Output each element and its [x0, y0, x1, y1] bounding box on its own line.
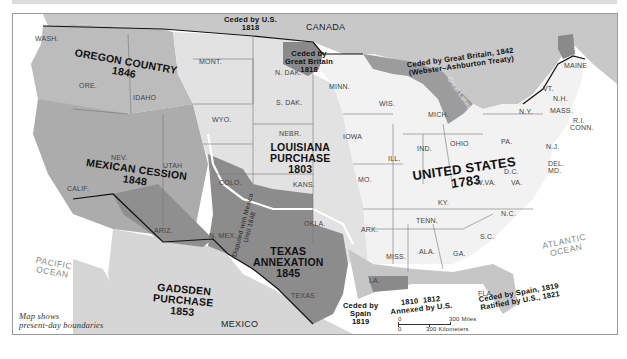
state-label-ind: IND. [417, 145, 432, 152]
scale-bar: 0 300 Miles 0 300 Kilometers [398, 316, 478, 334]
state-label-ohio: OHIO [450, 140, 469, 147]
state-label-mont: MONT. [199, 58, 222, 65]
state-label-ala: ALA. [419, 248, 435, 255]
label-louisiana-purchase: LOUISIANA PURCHASE 1803 [270, 142, 331, 175]
state-label-iowa: IOWA [343, 133, 362, 140]
state-label-ariz: ARIZ. [154, 227, 173, 234]
state-label-ark: ARK. [361, 226, 378, 233]
state-label-colo: COLO. [219, 179, 242, 186]
state-label-ore: ORE. [79, 82, 97, 89]
state-label-okla: OKLA. [304, 220, 326, 227]
state-label-tenn: TENN. [416, 217, 438, 224]
map-caption: Map shows present-day boundaries [19, 312, 104, 330]
state-label-idaho: IDAHO [133, 94, 156, 101]
state-label-va: VA. [511, 179, 522, 186]
state-label-nmex: N. MEX. [209, 232, 236, 239]
state-label-la: LA. [369, 277, 380, 284]
state-label-pa: PA. [501, 138, 512, 145]
state-label-conn: CONN. [570, 124, 594, 131]
state-label-ky: KY. [438, 199, 449, 206]
top-strip [12, 0, 617, 4]
state-label-wash: WASH. [35, 35, 59, 42]
state-label-miss: MISS. [386, 253, 406, 260]
state-label-wva: W.VA. [476, 179, 496, 186]
label-mexico: MEXICO [221, 319, 258, 329]
state-label-nev: NEV. [111, 154, 128, 161]
state-label-del: DEL. [548, 160, 564, 167]
label-gadsden-purchase: GADSDEN PURCHASE 1853 [152, 281, 215, 319]
state-label-calif: CALIF. [67, 185, 89, 192]
scale-tick-miles [450, 322, 451, 325]
label-canada: CANADA [306, 22, 345, 32]
note-ceded-us-1818: Ceded by U.S. 1818 [224, 16, 277, 32]
state-label-kans: KANS. [293, 181, 315, 188]
state-label-md: MD. [548, 167, 561, 174]
map-frame: CANADA MEXICO PACIFIC OCEAN ATLANTIC OCE… [12, 13, 618, 335]
state-label-ri: R.I. [573, 117, 585, 124]
state-label-fla: FLA. [478, 290, 494, 297]
state-label-sdak: S. DAK. [276, 99, 302, 106]
state-label-ndak: N. DAK. [275, 69, 302, 76]
state-label-wyo: WYO. [212, 116, 231, 123]
state-label-dc: D.C. [504, 168, 519, 175]
state-label-ny: N.Y. [519, 108, 533, 115]
state-label-vt: VT. [543, 85, 554, 92]
state-label-sc: S.C. [480, 233, 494, 240]
state-label-nebr: NEBR. [279, 130, 301, 137]
state-label-texas: TEXAS [291, 292, 315, 299]
state-label-maine: MAINE [564, 62, 587, 69]
state-label-nc: N.C. [501, 210, 516, 217]
note-ceded-spain-1819: Ceded by Spain 1819 [343, 302, 378, 326]
state-label-mass: MASS. [550, 107, 573, 114]
state-label-mich: MICH. [428, 111, 449, 118]
scale-line [398, 324, 450, 325]
state-label-wis: WIS. [379, 100, 395, 107]
state-label-utah: UTAH [163, 162, 182, 169]
state-label-nh: N.H. [553, 95, 568, 102]
state-label-mo: MO. [358, 176, 372, 183]
state-label-minn: MINN. [329, 83, 350, 90]
state-label-ill: ILL. [388, 155, 400, 162]
label-texas-annexation: TEXAS ANNEXATION 1845 [253, 246, 324, 279]
state-label-nj: N.J. [546, 143, 559, 150]
state-label-ga: GA. [453, 250, 466, 257]
